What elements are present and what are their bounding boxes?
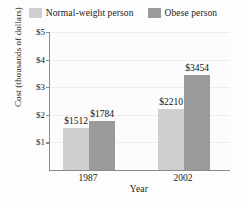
chart-legend: Normal-weight person Obese person [0, 5, 246, 21]
y-axis-tick-labels: $5 $4 $3 $2 $1 [21, 32, 45, 170]
y-tick-mark-2 [46, 115, 50, 116]
legend-label-obese: Obese person [165, 8, 218, 18]
y-tick-mark-4 [46, 60, 50, 61]
bar-1987-obese[interactable] [89, 121, 115, 170]
y-tick-label-3: $3 [21, 83, 45, 92]
x-tick-label-2002: 2002 [163, 173, 203, 183]
bar-2002-obese[interactable] [184, 75, 210, 170]
bar-1987-normal-weight[interactable] [63, 128, 89, 170]
gridline-4 [50, 60, 230, 61]
bar-label-2002-normal-weight: $2210 [146, 97, 196, 107]
legend-entry-normal-weight: Normal-weight person [29, 8, 134, 18]
y-tick-mark-3 [46, 87, 50, 88]
gridline-5 [50, 32, 230, 33]
x-axis-label: Year [49, 184, 229, 194]
y-tick-label-1: $1 [21, 138, 45, 147]
y-tick-mark-1 [46, 142, 50, 143]
x-tick-label-1987: 1987 [68, 173, 108, 183]
y-tick-label-5: $5 [21, 28, 45, 37]
legend-label-normal-weight: Normal-weight person [46, 8, 134, 18]
light-gray-swatch [29, 8, 42, 18]
bar-2002-normal-weight[interactable] [158, 109, 184, 170]
bar-label-1987-obese: $1784 [77, 109, 127, 119]
y-tick-label-4: $4 [21, 56, 45, 65]
plot-area: $1512 $1784 $2210 $3454 [49, 32, 230, 171]
y-tick-label-2: $2 [21, 111, 45, 120]
y-tick-mark-5 [46, 32, 50, 33]
dark-gray-swatch [148, 8, 161, 18]
bar-chart: Normal-weight person Obese person Cost (… [0, 0, 246, 202]
legend-entry-obese: Obese person [148, 8, 218, 18]
bar-label-2002-obese: $3454 [172, 63, 222, 73]
